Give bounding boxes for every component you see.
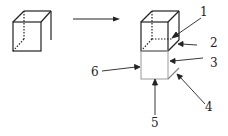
diagram: 1 2 3 4 5 6 bbox=[0, 0, 228, 136]
right-cube-icon bbox=[141, 11, 179, 51]
lower-box-icon bbox=[141, 51, 179, 79]
callout-label-1: 1 bbox=[200, 6, 208, 18]
callout-label-4: 4 bbox=[205, 101, 213, 113]
diagram-canvas bbox=[0, 0, 228, 136]
callout-label-6: 6 bbox=[91, 66, 99, 78]
callout-label-5: 5 bbox=[151, 117, 159, 129]
left-cube-icon bbox=[13, 11, 51, 51]
transition-arrow-icon bbox=[73, 17, 120, 22]
leader-arrows bbox=[102, 18, 205, 115]
callout-label-2: 2 bbox=[210, 37, 218, 49]
callout-label-3: 3 bbox=[210, 57, 218, 69]
